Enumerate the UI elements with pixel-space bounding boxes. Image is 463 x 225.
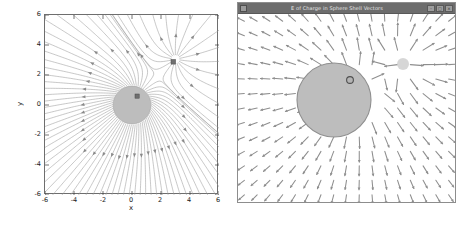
field-vector-arrowhead [273,124,277,128]
minimize-button[interactable]: – [427,5,435,12]
streamline-arrow [167,145,171,150]
streamline-arrow [125,155,129,160]
streamline [148,94,219,152]
streamline [176,63,219,121]
streamline-arrow [173,141,178,146]
ytick-label: -4 [28,161,41,168]
streamline [45,95,115,101]
field-vector-arrowhead [284,60,287,64]
streamline-arrow [89,61,94,66]
field-vector-arrowhead [327,145,331,149]
window-titlebar[interactable]: E of Charge in Sphere Shell Vectors – □ … [238,3,455,14]
field-vector-arrowhead [432,83,436,87]
inner-point-charge-marker [347,77,354,84]
field-vector-arrowhead [399,172,403,176]
streamline-arrow [91,151,96,156]
streamline [45,114,115,176]
field-vector-arrowhead [398,187,402,190]
field-vector [398,14,399,21]
ytick-label: 6 [28,11,41,18]
field-vector-arrowhead [412,186,416,190]
xtick-label: 4 [187,197,191,204]
streamline [148,116,170,195]
field-vector-arrowhead [371,187,374,190]
streamline [45,88,118,92]
field-vector-arrowhead [375,132,379,136]
inner-point-charge-marker [135,94,139,98]
streamline-arrow [93,50,98,55]
field-vector-arrowhead [260,45,264,49]
field-vector-arrowhead [297,59,301,63]
streamline [45,116,116,187]
streamline [152,15,173,56]
streamline [45,103,113,129]
field-vector-arrowhead [444,44,448,48]
vector-field-canvas [238,14,455,202]
field-vector [372,195,373,202]
streamline [125,15,172,59]
field-vector [238,94,244,95]
screenshot-root: -6 -4 -2 0 2 4 6 6 4 2 0 -2 -4 -6 x y E … [0,0,463,225]
field-vector [332,195,334,202]
field-vector [384,14,385,21]
field-vector [238,33,244,36]
streamline [150,98,219,171]
field-vector [410,14,414,21]
field-vector-arrowhead [329,173,333,176]
streamline-arrow [110,153,115,158]
field-vector [385,195,387,202]
field-vector-arrowhead [401,102,405,106]
sphere-disk [113,86,151,124]
field-vector [238,63,244,64]
field-vector-arrowhead [316,186,320,190]
field-vector-arrowhead [260,77,263,80]
field-vector-arrowhead [341,24,345,28]
field-vector-arrowhead [413,23,417,27]
streamline-arrow [80,111,85,115]
field-vector [345,195,346,202]
field-vector [238,108,244,110]
field-vector-arrowhead [358,188,361,191]
vector-plot-window[interactable]: E of Charge in Sphere Shell Vectors – □ … [237,2,456,203]
field-vector [449,64,455,65]
ytick-label: 4 [28,41,41,48]
field-vector-arrowhead [273,45,277,49]
streamline [45,106,113,143]
ytick-label: 0 [28,101,41,108]
window-controls[interactable]: – □ × [427,5,453,12]
streamline [179,45,219,58]
field-vector-arrowhead [284,109,287,113]
field-vector [449,47,455,50]
field-vector [357,14,360,21]
field-vector [238,48,244,50]
field-vector-arrowhead [248,31,252,35]
streamline-arrow [159,36,164,41]
streamline [97,124,128,195]
close-button[interactable]: × [445,5,453,12]
field-vector-arrowhead [358,160,361,163]
window-title: E of Charge in Sphere Shell Vectors [247,3,427,14]
field-vector-arrowhead [248,123,251,127]
field-vector-arrowhead [248,46,251,49]
streamline-arrow [133,153,137,157]
x-axis-label: x [129,204,133,212]
streamline [149,115,176,195]
field-vector-arrowhead [395,90,398,93]
streamplot-figure: -6 -4 -2 0 2 4 6 6 4 2 0 -2 -4 -6 x y [0,0,232,225]
maximize-button[interactable]: □ [436,5,444,12]
streamline [108,15,153,89]
streamline-arrow [80,103,84,107]
field-vector [398,195,400,202]
field-vector-arrowhead [359,51,362,54]
field-vector-arrowhead [284,93,287,96]
field-vector-arrowhead [272,93,275,96]
app-icon [240,5,247,12]
ytick-label: -2 [28,131,41,138]
streamline [45,104,113,135]
sphere-disk [297,63,371,137]
streamline [45,93,116,95]
field-vector-arrowhead [284,76,287,79]
field-vector-arrowhead [261,30,265,34]
streamline [45,108,113,150]
external-point-charge-marker [171,60,176,65]
